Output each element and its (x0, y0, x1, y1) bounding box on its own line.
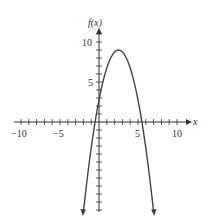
axes (14, 28, 192, 212)
x-tick-label-neg10: −10 (11, 128, 27, 139)
x-tick-label-neg5: −5 (53, 128, 64, 139)
y-tick-label-5: 5 (88, 77, 93, 88)
parabola-curve (80, 50, 156, 216)
x-tick-label-10: 10 (172, 128, 182, 139)
x-tick-label-5: 5 (135, 128, 140, 139)
y-axis-label: f(x) (88, 17, 103, 29)
function-graph: f(x) x −10 −5 5 10 5 10 (0, 0, 208, 221)
y-tick-label-10: 10 (82, 37, 92, 48)
x-axis-label: x (192, 116, 198, 127)
